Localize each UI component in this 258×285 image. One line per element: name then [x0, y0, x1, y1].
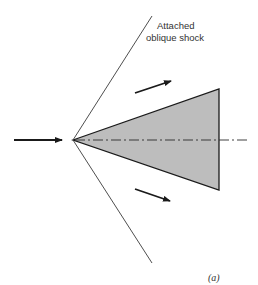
shock-label-line2: oblique shock	[146, 32, 204, 43]
oblique-shock-diagram: Attached oblique shock (a)	[0, 0, 258, 285]
panel-label: (a)	[208, 272, 220, 284]
lower-flow-arrow-icon	[135, 189, 170, 201]
upper-flow-arrow-icon	[135, 81, 171, 93]
shock-label-line1: Attached	[157, 20, 195, 31]
